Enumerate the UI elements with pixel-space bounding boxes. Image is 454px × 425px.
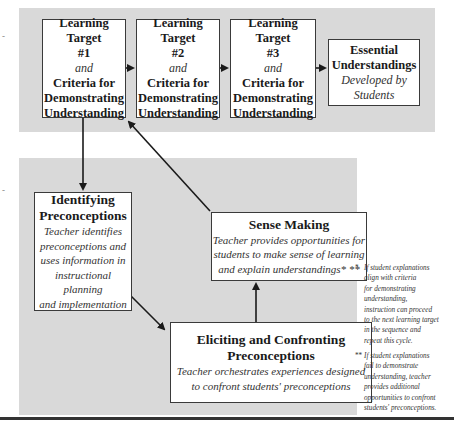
sense-making-desc: students to make sense of learning — [213, 247, 364, 262]
learning-target-2-box: Learning Target #2 and Criteria for Demo… — [136, 19, 220, 118]
target-title: Learning Target — [43, 16, 125, 46]
target-title: Learning Target — [231, 16, 315, 46]
footnote-single-star: * If student explanations align with cri… — [364, 263, 454, 346]
footnote-line: align with criteria — [364, 273, 454, 283]
footnote-mark: ** — [355, 351, 362, 361]
criteria-line: Demonstrating — [138, 91, 218, 106]
identifying-desc: uses information in — [41, 253, 126, 268]
criteria-line: Understanding — [138, 106, 218, 121]
target-number: #2 — [172, 46, 185, 61]
target-title: Learning Target — [137, 16, 219, 46]
sense-making-box: Sense Making Teacher provides opportunit… — [211, 212, 367, 281]
footnote-line: instruction can proceed — [364, 305, 454, 315]
criteria-line: Criteria for — [242, 76, 304, 91]
footnote-line: repeat this cycle. — [364, 336, 454, 346]
learning-target-3-box: Learning Target #3 and Criteria for Demo… — [230, 19, 316, 118]
footnote-line: students' preconceptions. — [364, 403, 454, 413]
identifying-title: Identifying — [51, 192, 115, 208]
eliciting-desc: to confront students' preconceptions — [192, 379, 351, 394]
criteria-line: Criteria for — [53, 76, 115, 91]
eliciting-desc: Teacher orchestrates experiences designe… — [177, 364, 365, 379]
criteria-line: Demonstrating — [233, 91, 313, 106]
eliciting-confronting-box: Eliciting and Confronting Preconceptions… — [170, 322, 372, 403]
target-connector: and — [169, 61, 187, 76]
identifying-desc: and implementation — [39, 297, 127, 312]
sense-making-title: Sense Making — [249, 217, 330, 233]
target-number: #3 — [267, 46, 280, 61]
footnote-line: in the sequence and — [364, 325, 454, 335]
criteria-line: Understanding — [233, 106, 313, 121]
learning-target-1-box: Learning Target #1 and Criteria for Demo… — [42, 19, 126, 118]
footnote-line: to the next learning target — [364, 315, 454, 325]
target-connector: and — [264, 61, 282, 76]
identifying-desc: Teacher identifies — [44, 224, 122, 239]
identifying-title: Preconceptions — [39, 208, 127, 224]
footnote-line: fail to demonstrate — [364, 361, 454, 371]
identifying-desc: instructional planning — [35, 268, 131, 297]
footnote-mark: * — [355, 263, 359, 273]
criteria-line: Understanding — [44, 106, 124, 121]
essential-title: Essential — [350, 43, 398, 58]
footnote-line: opportunities to confront — [364, 393, 454, 403]
footnote-line: If student explanations — [364, 351, 454, 361]
identifying-desc: preconceptions and — [40, 239, 126, 254]
eliciting-title: Eliciting and Confronting — [197, 332, 345, 348]
essential-subtitle: Developed by — [341, 73, 407, 88]
identifying-preconceptions-box: Identifying Preconceptions Teacher ident… — [34, 192, 132, 311]
sense-making-desc: and explain understandings* ** — [218, 262, 359, 277]
footnote-line: understanding, teacher — [364, 372, 454, 382]
footnote-line: If student explanations — [364, 263, 454, 273]
essential-subtitle: Students — [354, 88, 395, 103]
target-connector: and — [75, 61, 93, 76]
sense-making-desc: Teacher provides opportunities for — [213, 233, 365, 248]
footnote-line: for demonstrating — [364, 284, 454, 294]
footnote-double-star: ** If student explanations fail to demon… — [364, 351, 454, 413]
footnote-line: understanding, — [364, 294, 454, 304]
bottom-rule — [0, 417, 454, 420]
arrow-sense-lt1 — [129, 122, 210, 211]
footnote-line: provides additional — [364, 382, 454, 392]
arrow-identifying-eliciting — [131, 296, 164, 329]
eliciting-title: Preconceptions — [227, 348, 315, 364]
criteria-line: Demonstrating — [44, 91, 124, 106]
target-number: #1 — [78, 46, 91, 61]
essential-title: Understandings — [332, 58, 417, 73]
criteria-line: Criteria for — [147, 76, 209, 91]
essential-understandings-box: Essential Understandings Developed by St… — [328, 39, 420, 106]
